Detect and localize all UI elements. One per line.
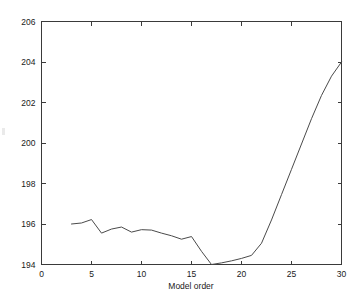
x-axis-ticks [42, 22, 342, 265]
x-tick-label: 25 [287, 269, 297, 279]
x-tick-label: 20 [237, 269, 247, 279]
x-tick-label: 10 [137, 269, 147, 279]
line-chart: 051015202530 194196198200202204206 Model… [0, 0, 363, 305]
x-axis-tick-labels: 051015202530 [39, 269, 346, 279]
x-tick-label: 15 [187, 269, 197, 279]
y-tick-label: 194 [21, 260, 35, 270]
data-series-line [72, 62, 342, 265]
y-tick-label: 198 [21, 179, 35, 189]
y-tick-label: 204 [21, 57, 35, 67]
y-tick-label: 202 [21, 98, 35, 108]
x-tick-label: 5 [89, 269, 94, 279]
y-tick-label: 196 [21, 219, 35, 229]
y-tick-label: 206 [21, 17, 35, 27]
y-axis-ticks [42, 22, 342, 265]
x-tick-label: 30 [337, 269, 347, 279]
y-tick-label: 200 [21, 138, 35, 148]
axes-box [42, 22, 342, 265]
x-tick-label: 0 [39, 269, 44, 279]
figure-canvas: 051015202530 194196198200202204206 Model… [0, 0, 363, 305]
x-axis-title: Model order [168, 281, 214, 291]
y-axis-tick-labels: 194196198200202204206 [21, 17, 35, 270]
